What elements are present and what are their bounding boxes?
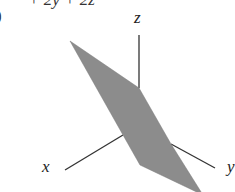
- y-axis-label: y: [227, 158, 235, 175]
- plane-3d-diagram: [0, 0, 235, 192]
- x-axis: [65, 135, 123, 170]
- z-axis-label: z: [134, 9, 141, 26]
- plane-surface: [70, 41, 203, 192]
- x-axis-label: x: [42, 158, 50, 175]
